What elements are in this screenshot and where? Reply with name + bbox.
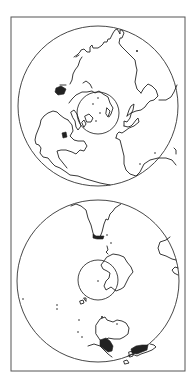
coastline-south-america <box>71 204 121 238</box>
globe-outline-north <box>18 26 178 186</box>
island-dot <box>136 50 138 52</box>
island-dot <box>78 319 80 321</box>
island-dot <box>22 298 24 300</box>
coastline-africa-south-tip <box>158 237 176 260</box>
island-dot <box>97 97 99 99</box>
island-dot <box>81 336 83 338</box>
coastline-japan-kamchatka <box>70 57 82 84</box>
dense-islands-japan <box>55 86 66 95</box>
island-dot <box>110 242 112 244</box>
map-canvas <box>0 0 195 384</box>
dense-islands-tierra-del-fuego <box>93 234 104 239</box>
dense-islands-indonesia <box>100 338 113 352</box>
coastline-siberia-east <box>127 84 158 116</box>
island-dot <box>101 316 103 318</box>
coastline-arctic-islands <box>82 108 110 127</box>
figure-frame <box>11 17 185 371</box>
polar-maps-figure <box>0 0 195 384</box>
coastline-eurasia-north <box>74 29 141 93</box>
island-dot <box>95 120 97 122</box>
coastline-africa-west-bump <box>174 148 176 154</box>
island-dot <box>56 308 58 310</box>
coastline-pacific-islets <box>80 298 86 304</box>
coastline-north-america-west <box>35 111 110 185</box>
island-dot <box>92 103 94 105</box>
island-dot <box>154 152 156 154</box>
coastline-east-asia-small <box>83 81 92 88</box>
coastline-madagascar-edge <box>172 267 178 275</box>
coastline-asia-east <box>159 85 177 100</box>
southern-hemisphere-map <box>17 200 179 364</box>
northern-hemisphere-map <box>18 26 178 186</box>
coastline-west-small <box>60 55 79 85</box>
dense-islands-caribbean <box>62 132 67 138</box>
south-pole-dot <box>97 280 99 282</box>
island-dot <box>116 323 118 325</box>
coastline-australia <box>96 317 129 342</box>
island-dot <box>56 304 58 306</box>
island-dot <box>77 331 79 333</box>
island-dot <box>139 163 141 165</box>
polar-circle-south <box>78 260 118 300</box>
island-dot <box>106 234 108 236</box>
island-dot <box>99 112 101 114</box>
coastline-antarctic-peninsula <box>106 246 108 254</box>
